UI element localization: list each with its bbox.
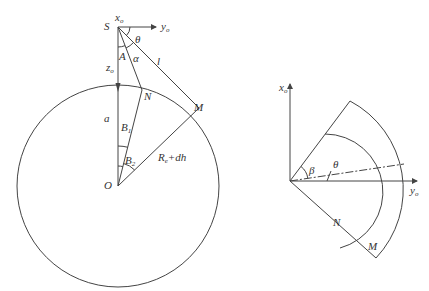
angle-B2-arc: [118, 166, 123, 167]
label-N: N: [143, 90, 152, 102]
label-N: N: [332, 216, 341, 228]
label-l: l: [157, 55, 160, 67]
label-alpha: α: [133, 52, 139, 64]
label-theta: θ: [135, 33, 141, 45]
right-figure: xo yo β θ N M: [278, 81, 419, 258]
label-beta: β: [308, 164, 315, 176]
inner-arc: [325, 134, 383, 248]
label-z-o: zo: [105, 61, 114, 75]
line-SM: [118, 27, 199, 108]
sector-upper-edge: [290, 101, 350, 181]
label-y-o: yo: [409, 184, 419, 198]
label-a: a: [104, 112, 110, 124]
label-A: A: [118, 50, 126, 62]
angle-theta-arc: [127, 27, 131, 36]
label-M: M: [367, 240, 378, 252]
label-O: O: [104, 179, 112, 191]
label-y-o: yo: [160, 20, 170, 34]
angle-B1-arc: [118, 146, 128, 147]
label-x-o: xo: [114, 11, 124, 25]
line-OM: [118, 108, 199, 186]
outer-arc: [350, 101, 403, 258]
dashdot-ray: [290, 164, 404, 181]
angle-beta-arc: [301, 167, 308, 179]
label-S: S: [104, 20, 110, 32]
angle-theta-tick: [327, 171, 331, 181]
geometry-diagram: S xo yo θ A α l zo N M a B1 B2 Re+dh O x…: [0, 0, 429, 291]
z-axis-arrowhead: [116, 83, 121, 92]
label-Re-plus-dh: Re+dh: [157, 151, 187, 165]
label-M: M: [193, 101, 204, 113]
angle-A-arc: [118, 46, 125, 47]
angle-alpha-arc: [126, 43, 134, 49]
left-figure: S xo yo θ A α l zo N M a B1 B2 Re+dh O: [17, 11, 219, 287]
label-theta: θ: [333, 158, 339, 170]
label-x-o: xo: [278, 81, 288, 95]
label-B1: B1: [121, 121, 131, 135]
label-B2: B2: [125, 154, 136, 168]
line-ON: [118, 90, 142, 186]
